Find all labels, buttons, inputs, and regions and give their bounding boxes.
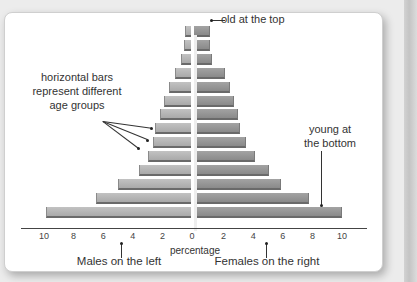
female-bar (194, 82, 230, 93)
female-bar (194, 179, 281, 190)
male-bar (96, 193, 191, 204)
arrow-dot-males (120, 242, 123, 245)
annotation-females: Females on the right (202, 254, 332, 268)
female-bar (194, 193, 309, 204)
male-bar (118, 179, 191, 190)
male-bar (155, 123, 191, 134)
female-bar (194, 109, 238, 120)
x-axis (21, 228, 367, 229)
x-tick-label: 4 (123, 231, 143, 241)
annotation-line-2: represent different (7, 84, 147, 98)
annotation-line-3: age groups (7, 98, 147, 112)
male-bar (175, 68, 191, 79)
arrow-dot-young (320, 204, 323, 207)
female-bar (194, 96, 234, 107)
x-tick-label: 0 (182, 231, 202, 241)
arrow-young (321, 151, 322, 205)
male-bar (160, 109, 191, 120)
annotation-young-line-2: the bottom (290, 136, 370, 150)
annotation-young-at-bottom: young at the bottom (290, 122, 370, 150)
male-bar (185, 26, 191, 37)
annotation-line-1: horizontal bars (7, 70, 147, 84)
female-bar (194, 207, 342, 218)
arrow-dot-2 (146, 139, 149, 142)
male-bar (46, 207, 191, 218)
male-bar (184, 40, 191, 51)
annotation-males: Males on the left (59, 254, 179, 268)
diagram-card: 1086420246810 percentage old at the top … (4, 12, 383, 272)
x-tick-label: 8 (64, 231, 84, 241)
male-bar (169, 82, 191, 93)
arrow-dot-females (265, 242, 268, 245)
annotation-horizontal-bars: horizontal bars represent different age … (7, 70, 147, 112)
arrow-dot-old (210, 19, 213, 22)
arrow-dot-1 (150, 127, 153, 130)
male-bar (164, 96, 191, 107)
x-tick-label: 6 (93, 231, 113, 241)
male-bar (148, 151, 191, 162)
male-bar (139, 165, 191, 176)
arrow-dot-3 (137, 147, 140, 150)
female-bar (194, 137, 246, 148)
side-strip (404, 0, 417, 282)
male-bar (153, 137, 191, 148)
x-tick-label: 10 (332, 231, 352, 241)
center-line (194, 35, 197, 231)
x-tick-label: 2 (214, 231, 234, 241)
arrow-old (211, 20, 225, 21)
female-bar (194, 68, 225, 79)
x-tick-label: 2 (152, 231, 172, 241)
x-tick-label: 10 (34, 231, 54, 241)
annotation-old-at-top: old at the top (221, 12, 341, 26)
female-bar (194, 151, 255, 162)
female-bar (194, 123, 240, 134)
annotation-young-line-1: young at (290, 122, 370, 136)
x-tick-label: 6 (273, 231, 293, 241)
male-bar (181, 54, 191, 65)
female-bar (194, 165, 269, 176)
x-tick-label: 8 (302, 231, 322, 241)
x-tick-label: 4 (243, 231, 263, 241)
